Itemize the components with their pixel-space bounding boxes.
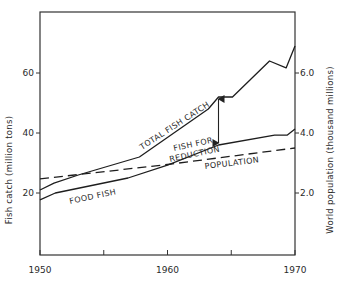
x-axis-ticks: 195019601970 — [29, 250, 307, 275]
y2-tick-label: 4.0 — [300, 128, 315, 138]
y-axis-left-title: Fish catch (million tons) — [4, 116, 14, 225]
food-fish-label: FOOD FISH — [69, 187, 117, 206]
population-label: POPULATION — [204, 155, 260, 171]
y-axis-right-ticks: 2.04.06.0 — [295, 68, 315, 198]
total-fish-catch-line — [40, 46, 295, 190]
x-tick-label: 1970 — [284, 265, 307, 275]
y2-tick-label: 6.0 — [300, 68, 315, 78]
fish-catch-population-chart: 195019601970 204060 2.04.06.0 TOTAL FISH… — [0, 0, 340, 281]
series-lines — [40, 46, 295, 200]
y-tick-label: 40 — [23, 128, 35, 138]
y2-tick-label: 2.0 — [300, 188, 315, 198]
x-tick-label: 1950 — [29, 265, 52, 275]
y-tick-label: 20 — [23, 188, 35, 198]
y-axis-right-title: World population (thousand millions) — [325, 66, 335, 234]
y-tick-label: 60 — [23, 68, 35, 78]
y-axis-left-ticks: 204060 — [23, 68, 40, 198]
x-tick-label: 1960 — [156, 265, 179, 275]
